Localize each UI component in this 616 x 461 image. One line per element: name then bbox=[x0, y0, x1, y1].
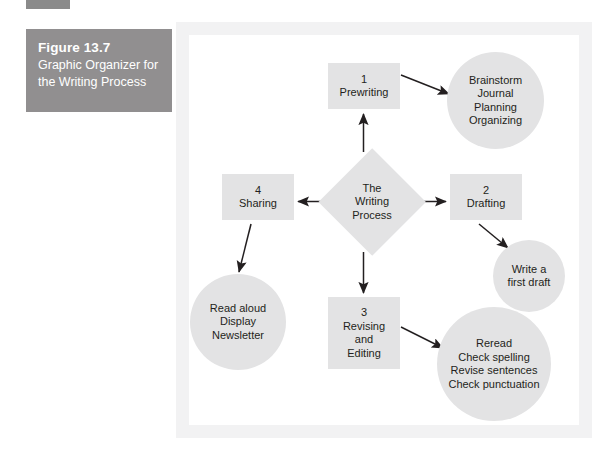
node-first-draft-details[interactable]: Write a first draft bbox=[493, 240, 565, 312]
node-writing-process[interactable]: The Writing Process bbox=[318, 148, 426, 256]
node-revising-details[interactable]: Reread Check spelling Revise sentences C… bbox=[437, 307, 551, 421]
node-sharing-details[interactable]: Read aloud Display Newsletter bbox=[190, 274, 286, 370]
node-line: Prewriting bbox=[328, 86, 400, 100]
node-sharing[interactable]: 4 Sharing bbox=[222, 174, 294, 220]
figure-caption-title: Figure 13.7 bbox=[38, 39, 160, 56]
node-line: and bbox=[328, 333, 400, 347]
node-line: Brainstorm bbox=[447, 74, 544, 88]
node-line: Sharing bbox=[222, 197, 294, 211]
node-line: Drafting bbox=[450, 197, 522, 211]
node-drafting[interactable]: 2 Drafting bbox=[450, 174, 522, 220]
node-line: 3 bbox=[328, 306, 400, 320]
node-line: Reread bbox=[437, 337, 551, 351]
node-prewriting[interactable]: 1 Prewriting bbox=[328, 63, 400, 109]
figure-caption-subtitle: Graphic Organizer for the Writing Proces… bbox=[38, 57, 160, 90]
node-label: The Writing Process bbox=[318, 148, 426, 256]
node-line: 4 bbox=[222, 184, 294, 198]
node-line: Check punctuation bbox=[437, 378, 551, 392]
node-line: Editing bbox=[328, 347, 400, 361]
node-line: Planning bbox=[447, 101, 544, 115]
node-line: Newsletter bbox=[190, 329, 286, 343]
node-line: Journal bbox=[447, 87, 544, 101]
node-line: Process bbox=[352, 209, 392, 223]
figure-caption-box: Figure 13.7 Graphic Organizer for the Wr… bbox=[26, 29, 172, 112]
node-line: Writing bbox=[352, 195, 392, 209]
node-line: 1 bbox=[328, 73, 400, 87]
node-line: Write a bbox=[493, 263, 565, 277]
page-scan-artifact bbox=[26, 0, 70, 9]
node-line: first draft bbox=[493, 276, 565, 290]
node-line: Read aloud bbox=[190, 302, 286, 316]
node-line: 2 bbox=[450, 184, 522, 198]
node-revising-editing[interactable]: 3 Revising and Editing bbox=[328, 297, 400, 369]
node-line: Revising bbox=[328, 320, 400, 334]
node-line: The bbox=[352, 182, 392, 196]
node-line: Display bbox=[190, 315, 286, 329]
node-brainstorm-details[interactable]: Brainstorm Journal Planning Organizing bbox=[447, 52, 544, 149]
node-line: Check spelling bbox=[437, 351, 551, 365]
node-line: Revise sentences bbox=[437, 364, 551, 378]
node-line: Organizing bbox=[447, 114, 544, 128]
